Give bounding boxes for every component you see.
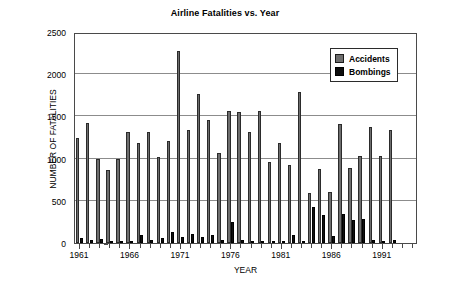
legend-label-accidents: Accidents — [349, 54, 390, 64]
x-tick-mark — [372, 244, 373, 248]
y-tick-label: 2500 — [47, 28, 66, 38]
x-tick-mark — [200, 244, 201, 248]
bar-bombings — [322, 215, 325, 243]
x-tick-mark — [119, 244, 120, 248]
bar-group — [216, 34, 226, 243]
bar-group — [186, 34, 196, 243]
bar-bombings — [362, 219, 365, 243]
legend-label-bombings: Bombings — [349, 67, 391, 77]
bar-accidents — [248, 132, 251, 243]
bar-group — [267, 34, 277, 243]
x-axis-tick-labels: 1961196619711976198119861991 — [74, 250, 417, 264]
y-tick-label: 1000 — [47, 155, 66, 165]
bar-accidents — [268, 162, 271, 243]
bar-bombings — [231, 222, 234, 243]
x-tick-mark — [402, 244, 403, 248]
bar-group — [95, 34, 105, 243]
bar-bombings — [272, 241, 275, 243]
bar-bombings — [110, 241, 113, 243]
x-tick-mark — [150, 244, 151, 248]
x-tick-mark — [301, 244, 302, 248]
x-tick-mark — [281, 244, 282, 249]
y-axis: NUMBER OF FATALITIES 0500100015002000250… — [34, 26, 70, 252]
x-tick-mark — [129, 244, 130, 249]
bar-bombings — [130, 241, 133, 243]
bar-group — [85, 34, 95, 243]
bar-group — [166, 34, 176, 243]
bar-accidents — [288, 165, 291, 243]
bar-accidents — [76, 138, 79, 244]
bar-accidents — [227, 111, 230, 243]
bar-bombings — [150, 240, 153, 243]
x-tick-label: 1966 — [120, 250, 139, 260]
x-axis-ticks — [74, 244, 417, 249]
x-tick-mark — [220, 244, 221, 248]
bar-accidents — [157, 157, 160, 243]
bar-accidents — [106, 170, 109, 243]
bar-accidents — [217, 153, 220, 243]
x-tick-mark — [109, 244, 110, 248]
bar-bombings — [342, 214, 345, 243]
x-tick-mark — [392, 244, 393, 248]
chart-title: Airline Fatalities vs. Year — [0, 8, 450, 18]
x-tick-mark — [79, 244, 80, 249]
x-axis-title: YEAR — [74, 265, 417, 275]
x-tick-label: 1986 — [322, 250, 341, 260]
bar-accidents — [137, 143, 140, 243]
x-tick-mark — [170, 244, 171, 248]
bar-group — [196, 34, 206, 243]
x-tick-mark — [331, 244, 332, 249]
bar-accidents — [167, 141, 170, 243]
x-tick-mark — [311, 244, 312, 248]
x-tick-mark — [210, 244, 211, 248]
x-tick-label: 1976 — [221, 250, 240, 260]
bar-accidents — [86, 123, 89, 243]
bar-bombings — [292, 235, 295, 243]
bar-group — [75, 34, 85, 243]
bar-bombings — [181, 237, 184, 243]
x-tick-mark — [160, 244, 161, 248]
bar-group — [317, 34, 327, 243]
bar-bombings — [302, 241, 305, 243]
y-tick-label: 500 — [52, 197, 66, 207]
bar-group — [408, 34, 418, 243]
x-tick-mark — [261, 244, 262, 248]
bar-bombings — [382, 241, 385, 243]
x-tick-label: 1971 — [170, 250, 189, 260]
bar-bombings — [191, 234, 194, 243]
bar-bombings — [332, 236, 335, 243]
bombings-swatch-icon — [335, 67, 344, 76]
bar-accidents — [328, 192, 331, 243]
x-tick-label: 1981 — [271, 250, 290, 260]
bar-accidents — [358, 156, 361, 243]
bar-group — [125, 34, 135, 243]
bar-bombings — [90, 240, 93, 243]
bar-group — [398, 34, 408, 243]
accidents-swatch-icon — [335, 54, 344, 63]
bar-bombings — [352, 220, 355, 243]
x-tick-mark — [190, 244, 191, 248]
x-tick-mark — [271, 244, 272, 248]
y-axis-title: NUMBER OF FATALITIES — [48, 59, 58, 219]
y-tick-label: 2000 — [47, 70, 66, 80]
x-tick-mark — [351, 244, 352, 248]
bar-accidents — [207, 120, 210, 243]
bar-accidents — [197, 94, 200, 243]
bar-bombings — [201, 237, 204, 243]
bar-group — [176, 34, 186, 243]
bar-accidents — [187, 130, 190, 243]
bar-accidents — [278, 143, 281, 243]
y-tick-label: 0 — [61, 239, 66, 249]
bar-group — [156, 34, 166, 243]
bar-accidents — [318, 169, 321, 243]
bar-bombings — [171, 232, 174, 243]
bar-group — [247, 34, 257, 243]
bar-accidents — [308, 193, 311, 243]
bar-group — [226, 34, 236, 243]
bar-bombings — [221, 240, 224, 243]
bar-group — [297, 34, 307, 243]
bar-accidents — [258, 111, 261, 243]
bar-bombings — [372, 240, 375, 243]
bar-bombings — [80, 238, 83, 243]
x-tick-mark — [180, 244, 181, 249]
